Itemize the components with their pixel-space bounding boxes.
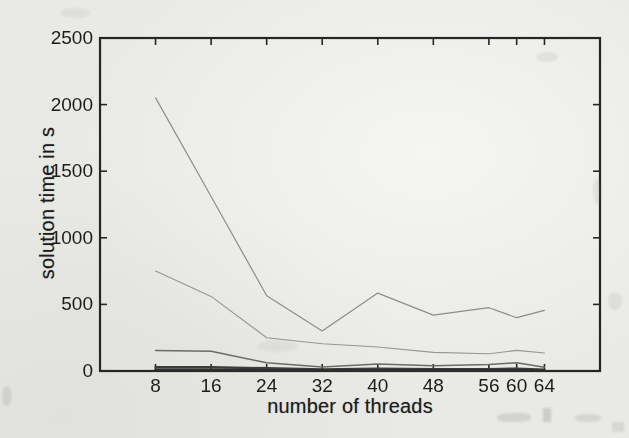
series-line-1 [156, 98, 545, 331]
series-line-5 [156, 370, 545, 371]
plot-box [100, 38, 600, 371]
x-tick-label: 24 [256, 375, 278, 396]
x-tick-label: 56 [478, 375, 499, 396]
x-tick-label: 60 [506, 375, 527, 396]
x-tick-label: 40 [367, 375, 388, 396]
y-tick-label: 2500 [51, 27, 93, 48]
y-axis-title: solution time in s [36, 123, 58, 283]
x-tick-label: 16 [201, 375, 222, 396]
y-tick-label: 500 [61, 293, 93, 314]
x-tick-label: 8 [150, 375, 161, 396]
x-tick-label: 32 [312, 375, 333, 396]
x-tick-label: 64 [534, 375, 556, 396]
series-line-3 [156, 350, 545, 367]
scanned-figure: 8162432404856606405001000150020002500 so… [0, 0, 629, 438]
y-tick-label: 2000 [51, 94, 93, 115]
x-tick-label: 48 [423, 375, 444, 396]
x-axis-title: number of threads [230, 395, 470, 418]
y-tick-label: 0 [82, 360, 93, 381]
line-chart: 8162432404856606405001000150020002500 [0, 0, 629, 438]
